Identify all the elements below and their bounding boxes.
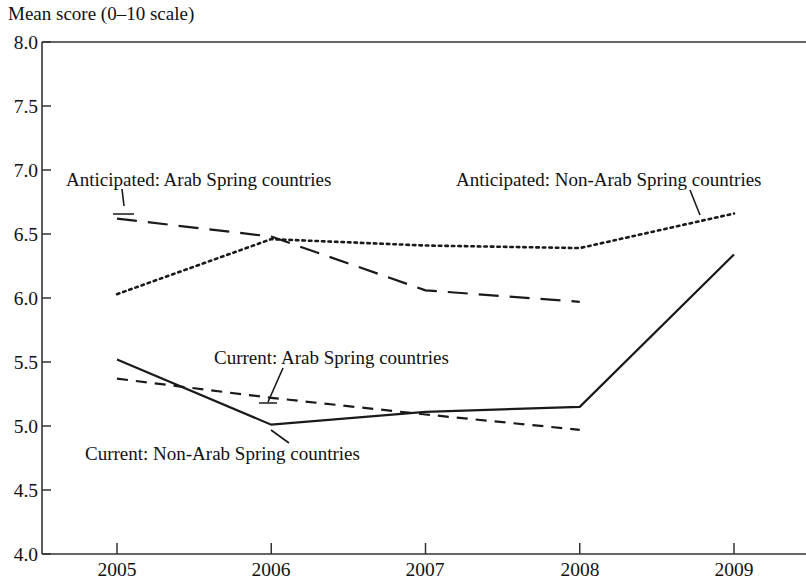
series-lines [117, 214, 734, 430]
series-line [117, 219, 580, 302]
series-line [117, 214, 734, 295]
x-axis-ticks [117, 543, 734, 554]
annotation-leader-line [113, 189, 134, 214]
annotation-leader-line [271, 430, 289, 443]
y-axis-ticks [42, 42, 51, 554]
chart-figure: Mean score (0–10 scale) 8.0 7.5 7.0 6.5 … [0, 0, 806, 587]
series-line [117, 254, 734, 424]
chart-plot-area [0, 0, 806, 587]
annotation-leader-line [690, 190, 700, 215]
series-line [117, 379, 580, 430]
annotation-leader-lines [113, 189, 700, 443]
